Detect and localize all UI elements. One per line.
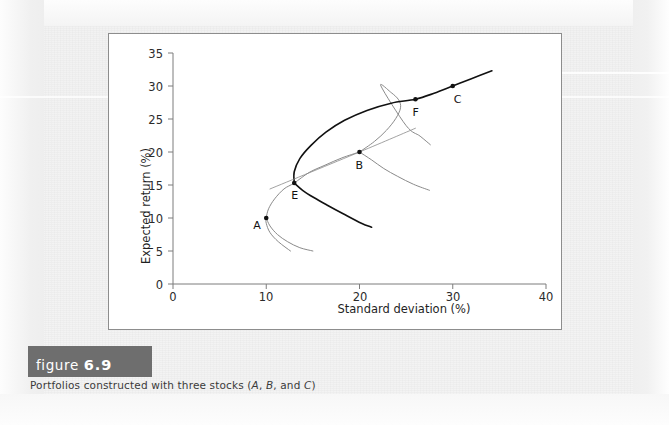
page-right-margin: [633, 0, 669, 425]
caption-suffix: ): [311, 379, 315, 391]
chart-datapoint-b: [357, 150, 362, 155]
datapoint-label-b: B: [356, 159, 364, 172]
y-axis-title: Expected return (%): [139, 148, 153, 264]
y-tick-label: 35: [137, 47, 163, 61]
caption-stock-a: A: [252, 379, 259, 391]
caption-sep-1: ,: [259, 379, 266, 391]
x-tick-label: 0: [160, 290, 186, 304]
x-axis-title: Standard deviation (%): [274, 302, 534, 316]
figure-number-text: figure 6.9: [36, 357, 112, 373]
y-tick-label: 25: [137, 113, 163, 127]
caption-prefix: Portfolios constructed with three stocks…: [30, 379, 252, 391]
page-bottom-margin: [0, 394, 669, 425]
chart-datapoint-c: [450, 84, 455, 89]
page-top-margin: [0, 0, 669, 26]
caption-sep-2: , and: [273, 379, 304, 391]
figure-panel: 35 30 25 20 15 10 5 0 0 10 20 30 40 Expe…: [108, 33, 562, 330]
y-tick-label: 30: [137, 80, 163, 94]
figure-word: figure: [36, 357, 79, 373]
chart-series-path: [270, 128, 415, 189]
chart-series-path: [266, 218, 313, 251]
datapoint-label-c: C: [454, 93, 462, 106]
datapoint-label-e: E: [291, 189, 298, 202]
chart-series-path: [360, 152, 430, 190]
x-tick-label: 40: [533, 290, 559, 304]
datapoint-label-f: F: [412, 106, 418, 119]
chart-datapoint-f: [413, 97, 418, 102]
figure-number: 6.9: [84, 357, 113, 373]
chart-series-path: [360, 84, 431, 152]
figure-caption: Portfolios constructed with three stocks…: [30, 379, 316, 391]
chart-datapoint-a: [264, 216, 269, 221]
chart-series-path: [294, 183, 371, 227]
chart-datapoint-e: [292, 181, 297, 186]
chart-canvas: [109, 34, 563, 331]
datapoint-label-a: A: [253, 219, 261, 232]
